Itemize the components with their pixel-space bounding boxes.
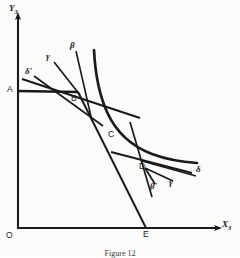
- origin-label: O: [6, 231, 13, 240]
- segment-B-to-E: [78, 92, 146, 228]
- x-axis-label: X3: [222, 220, 231, 231]
- vertex-B-rays-group: [22, 51, 140, 126]
- y-axis-label: Y3: [9, 4, 18, 15]
- ray-label-beta-prime-lower: β': [150, 182, 157, 191]
- ray-delta-prime-at-B: [34, 76, 103, 126]
- indifference-curve: [94, 50, 197, 163]
- axes-group: [15, 12, 222, 231]
- segment-A-to-B: [18, 91, 78, 92]
- tangent-line-at-B: [22, 79, 140, 118]
- ray-label-delta-lower: δ: [196, 165, 201, 174]
- point-label-d: D: [139, 162, 145, 171]
- ray-label-beta-upper: β: [70, 41, 75, 50]
- ray-label-gamma-upper: γ: [46, 52, 50, 61]
- point-label-c: C: [108, 130, 114, 139]
- point-label-a: A: [7, 85, 13, 94]
- point-label-b: B: [71, 94, 77, 103]
- point-label-e: E: [143, 230, 149, 239]
- ray-through-D-steep: [130, 122, 152, 197]
- figure-caption: Figure 12: [0, 249, 240, 258]
- ray-beta-at-B: [76, 51, 92, 121]
- ray-label-gamma-lower: γ: [169, 178, 173, 187]
- indifference-curve-group: [94, 50, 197, 163]
- ray-label-delta-prime-upper: δ': [25, 67, 32, 76]
